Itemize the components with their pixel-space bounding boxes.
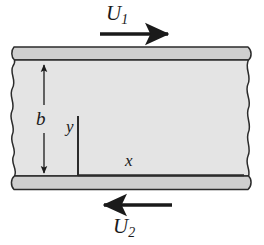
lower-plate-body bbox=[11, 176, 251, 190]
upper-velocity-subscript: 1 bbox=[121, 12, 128, 27]
lower-plate bbox=[11, 176, 251, 190]
lower-velocity-label: U2 bbox=[113, 216, 135, 240]
y-axis-label: y bbox=[66, 118, 74, 135]
x-axis-label: x bbox=[125, 152, 133, 169]
upper-velocity-symbol: U bbox=[106, 1, 121, 25]
lower-velocity-symbol: U bbox=[113, 214, 128, 238]
channel-flow-diagram: U1 U2 b y x bbox=[0, 0, 264, 245]
gap-label: b bbox=[36, 109, 46, 128]
upper-velocity-label: U1 bbox=[106, 3, 128, 27]
upper-plate-body bbox=[12, 47, 251, 60]
upper-plate bbox=[12, 47, 251, 60]
lower-velocity-subscript: 2 bbox=[128, 225, 135, 240]
